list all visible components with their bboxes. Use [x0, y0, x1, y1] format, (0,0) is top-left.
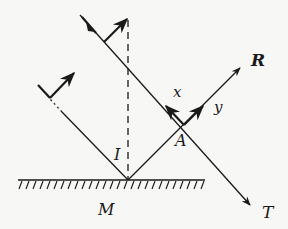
axis-y-arrow	[184, 106, 203, 125]
label-T: T	[262, 202, 275, 222]
diagram-canvas: x y I A M R T	[0, 0, 288, 229]
label-x: x	[173, 83, 182, 101]
label-A: A	[173, 131, 187, 150]
label-M: M	[97, 200, 115, 219]
polarization-arrow-top	[104, 19, 127, 42]
ray-line-to-T	[80, 15, 250, 205]
label-I: I	[113, 145, 121, 164]
mirror-surface	[18, 180, 205, 189]
polarization-arrow-left	[50, 73, 74, 98]
label-R: R	[250, 50, 265, 70]
label-y: y	[213, 98, 223, 116]
